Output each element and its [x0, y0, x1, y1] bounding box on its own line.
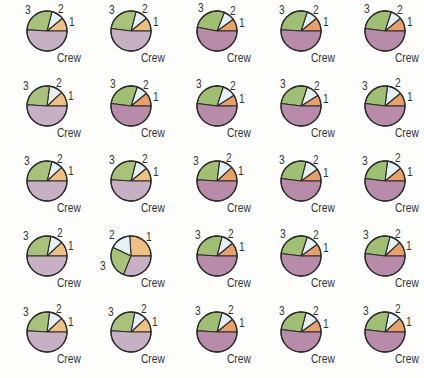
- slice-label-1: 1: [323, 167, 329, 179]
- slice-label-2: 2: [395, 303, 401, 315]
- slice-label-2: 2: [228, 228, 234, 240]
- slice-label-2: 2: [397, 4, 403, 16]
- pie-r4-c2: 123Crew: [91, 226, 171, 298]
- slice-label-2: 2: [57, 153, 63, 165]
- pie-slice-crew: [111, 103, 151, 126]
- slice-label-crew: Crew: [395, 127, 419, 139]
- slice-label-1: 1: [323, 93, 329, 105]
- slice-label-1: 1: [323, 318, 329, 330]
- slice-label-1: 1: [153, 91, 159, 103]
- pie-r3-c1: 123Crew: [7, 151, 87, 223]
- slice-label-2: 2: [142, 3, 148, 15]
- pie-slice-crew: [365, 178, 405, 201]
- pie-r1-c5: 123Crew: [345, 1, 424, 73]
- slice-label-3: 3: [23, 306, 29, 318]
- pie-slice-crew: [365, 28, 405, 51]
- slice-label-2: 2: [226, 152, 232, 164]
- slice-label-3: 3: [279, 305, 285, 317]
- slice-label-2: 2: [230, 80, 236, 92]
- pie-slice-3: [365, 86, 387, 106]
- slice-label-crew: Crew: [395, 52, 419, 64]
- pie-slice-3: [27, 236, 51, 256]
- pie-slice-crew: [281, 253, 321, 276]
- pie-slice-3: [365, 161, 387, 181]
- pie-slice-crew: [111, 180, 151, 201]
- pie-r1-c2: 123Crew: [91, 1, 171, 73]
- pie-r2-c3: 123Crew: [177, 76, 257, 148]
- slice-label-2: 2: [395, 228, 401, 240]
- slice-label-crew: Crew: [311, 277, 335, 289]
- pie-slice-crew: [365, 329, 405, 352]
- pie-r2-c4: 123Crew: [261, 76, 341, 148]
- pie-r2-c1: 123Crew: [7, 76, 87, 148]
- pie-slice-crew: [27, 30, 67, 51]
- pie-slice-3: [27, 161, 52, 181]
- slice-label-1: 1: [406, 316, 412, 328]
- slice-label-crew: Crew: [311, 127, 335, 139]
- slice-label-crew: Crew: [227, 277, 251, 289]
- pie-slice-crew: [27, 331, 67, 352]
- slice-label-1: 1: [239, 17, 245, 29]
- pie-slice-crew: [365, 253, 405, 276]
- slice-label-1: 1: [407, 166, 413, 178]
- slice-label-3: 3: [198, 2, 204, 14]
- slice-label-2: 2: [230, 5, 236, 17]
- slice-label-2: 2: [313, 305, 319, 317]
- pie-r4-c4: 123Crew: [261, 226, 341, 298]
- slice-label-3: 3: [23, 230, 29, 242]
- pie-slice-crew: [281, 30, 321, 51]
- pie-r5-c1: 123Crew: [7, 302, 87, 374]
- slice-label-2: 2: [56, 303, 62, 315]
- pie-slice-crew: [197, 331, 237, 352]
- pie-r3-c5: 123Crew: [345, 151, 424, 223]
- slice-label-crew: Crew: [311, 353, 335, 365]
- slice-label-3: 3: [23, 80, 29, 92]
- slice-label-3: 3: [195, 229, 201, 241]
- slice-label-crew: Crew: [227, 127, 251, 139]
- slice-label-2: 2: [56, 77, 62, 89]
- slice-label-crew: Crew: [57, 277, 81, 289]
- slice-label-3: 3: [279, 4, 285, 16]
- pie-r2-c2: 123Crew: [91, 76, 171, 148]
- slice-label-2: 2: [142, 153, 148, 165]
- slice-label-1: 1: [323, 242, 329, 254]
- slice-label-1: 1: [153, 166, 159, 178]
- pie-r1-c3: 123Crew: [177, 1, 257, 73]
- pie-r3-c3: 123Crew: [177, 151, 257, 223]
- slice-label-3: 3: [280, 78, 286, 90]
- pie-slice-crew: [197, 255, 237, 276]
- slice-label-crew: Crew: [141, 353, 165, 365]
- pie-r3-c4: 123Crew: [261, 151, 341, 223]
- slice-label-2: 2: [57, 227, 63, 239]
- slice-label-3: 3: [109, 154, 115, 166]
- slice-label-crew: Crew: [395, 277, 419, 289]
- slice-label-2: 2: [313, 229, 319, 241]
- pie-slice-crew: [281, 178, 321, 201]
- slice-label-2: 2: [143, 79, 149, 91]
- slice-label-3: 3: [363, 305, 369, 317]
- slice-label-1: 1: [146, 231, 152, 243]
- pie-slice-crew: [197, 180, 237, 201]
- pie-slice-crew: [281, 103, 321, 126]
- slice-label-1: 1: [407, 91, 413, 103]
- slice-label-3: 3: [279, 154, 285, 166]
- slice-label-2: 2: [58, 3, 64, 15]
- pie-slice-crew: [27, 256, 67, 276]
- slice-label-1: 1: [238, 165, 244, 177]
- slice-label-crew: Crew: [311, 52, 335, 64]
- pie-r5-c2: 123Crew: [91, 302, 171, 374]
- slice-label-crew: Crew: [227, 353, 251, 365]
- slice-label-crew: Crew: [57, 202, 81, 214]
- slice-label-crew: Crew: [141, 202, 165, 214]
- slice-label-3: 3: [364, 3, 370, 15]
- slice-label-1: 1: [407, 16, 413, 28]
- slice-label-1: 1: [69, 16, 75, 28]
- slice-label-2: 2: [313, 4, 319, 16]
- slice-label-1: 1: [68, 316, 74, 328]
- pie-r4-c5: 123Crew: [345, 226, 424, 298]
- slice-label-crew: Crew: [57, 52, 81, 64]
- pie-slice-crew: [365, 103, 405, 126]
- slice-label-crew: Crew: [141, 52, 165, 64]
- slice-label-1: 1: [323, 16, 329, 28]
- pie-r1-c1: 123Crew: [7, 1, 87, 73]
